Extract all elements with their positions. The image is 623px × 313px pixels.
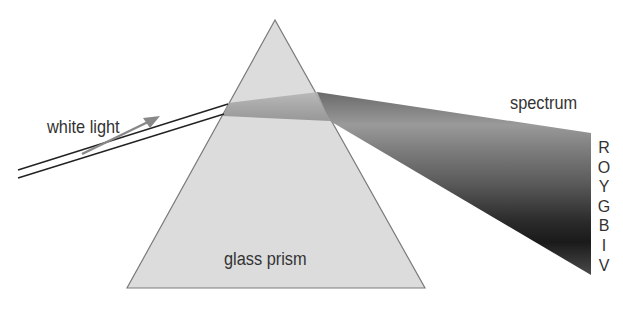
spectrum-label: spectrum xyxy=(510,92,577,114)
white-light-label: white light xyxy=(47,116,120,138)
color-letter-blue: B xyxy=(597,216,611,236)
spectrum-color-letters: R O Y G B I V xyxy=(597,138,611,275)
color-letter-orange: O xyxy=(597,158,611,178)
color-letter-red: R xyxy=(597,138,611,158)
color-letter-indigo: I xyxy=(597,236,611,256)
prism-diagram xyxy=(0,0,623,313)
color-letter-green: G xyxy=(597,197,611,217)
color-letter-yellow: Y xyxy=(597,177,611,197)
color-letter-violet: V xyxy=(597,256,611,276)
glass-prism-label: glass prism xyxy=(224,248,307,270)
